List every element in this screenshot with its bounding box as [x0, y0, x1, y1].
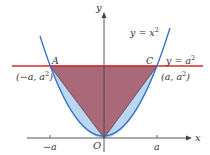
origin-label: O [93, 140, 101, 151]
tick-label-neg-a: −a [43, 141, 57, 152]
point-c-label: C [146, 55, 154, 66]
x-axis-arrow-icon [186, 136, 192, 141]
tick-label-a: a [154, 141, 160, 152]
y-axis-arrow-icon [102, 12, 107, 18]
point-a-label: A [51, 55, 59, 66]
point-a-coordinates: (−a, a2) [16, 70, 53, 82]
point-c-coordinates: (a, a2) [161, 70, 190, 82]
line-equation-label: y = a2 [165, 54, 195, 66]
parabola-triangle-diagram: y x O −a a y = x2 y = a2 A C (−a, a2) (a… [0, 0, 210, 155]
x-axis-label: x [195, 132, 201, 143]
parabola-equation-label: y = x2 [129, 26, 159, 38]
y-axis-label: y [95, 2, 102, 13]
